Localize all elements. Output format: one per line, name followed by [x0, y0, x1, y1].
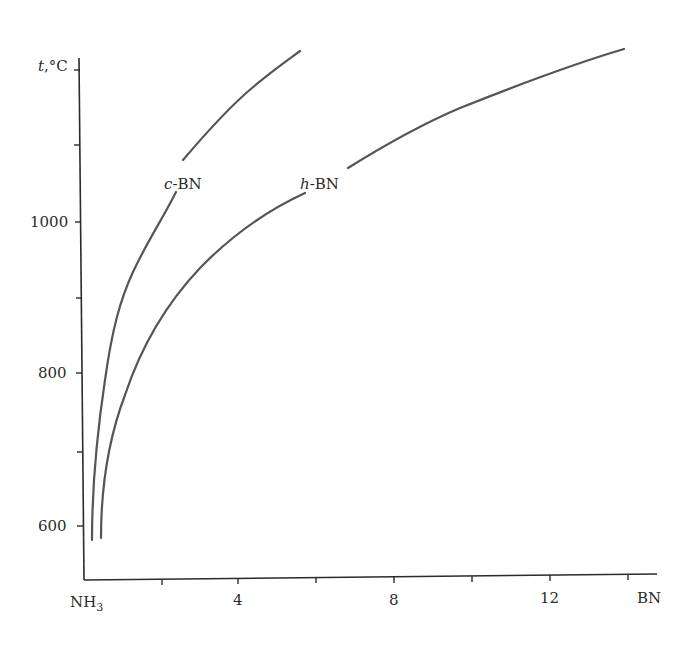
y-tick-label-1000: 1000 — [30, 213, 68, 231]
h-bn-label: h-BN — [300, 175, 339, 193]
y-tick-label-600: 600 — [38, 517, 67, 535]
x-tick-label-8: 8 — [389, 591, 399, 609]
y-ticks — [74, 70, 83, 526]
y-axis — [79, 58, 84, 580]
h-bn-curve-lower — [101, 193, 305, 538]
h-bn-curve-upper — [348, 49, 624, 168]
x-axis — [84, 574, 657, 580]
c-bn-curve-upper — [183, 51, 300, 160]
x-tick-label-4: 4 — [233, 591, 243, 609]
y-tick-label-800: 800 — [38, 364, 67, 382]
x-tick-label-bn: BN — [637, 589, 661, 607]
x-tick-label-12: 12 — [540, 589, 559, 607]
y-axis-title: t,°C — [38, 57, 68, 75]
c-bn-label: c-BN — [164, 175, 202, 193]
phase-chart: t,°C 1000 800 600 NH3 4 8 12 BN c-BN h-B… — [0, 0, 693, 645]
x-tick-label-nh3: NH3 — [70, 593, 103, 614]
